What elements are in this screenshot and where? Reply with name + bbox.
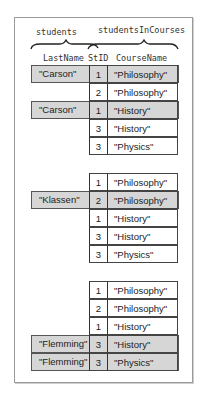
- coursename-cell: "Philosophy": [107, 281, 178, 299]
- coursename-cell: "History": [107, 209, 178, 227]
- stid-cell: 3: [89, 137, 107, 155]
- stid-cell: 1: [89, 65, 107, 83]
- stid-cell: 1: [89, 281, 107, 299]
- column-header-lastname: LastName: [43, 53, 84, 63]
- coursename-cell: "History": [107, 335, 178, 353]
- stid-cell: 1: [89, 101, 107, 119]
- students-in-courses-brace-icon: [30, 39, 180, 51]
- column-header-coursename: CourseName: [116, 53, 167, 63]
- stid-cell: 2: [89, 83, 107, 101]
- stid-cell: 1: [89, 173, 107, 191]
- students-table-label: students: [36, 27, 77, 37]
- coursename-cell: "Philosophy": [107, 299, 178, 317]
- coursename-cell: "Physics": [107, 353, 178, 371]
- lastname-cell: "Flemming": [31, 353, 89, 371]
- coursename-cell: "History": [107, 119, 178, 137]
- stid-cell: 3: [89, 245, 107, 263]
- coursename-cell: "Philosophy": [107, 191, 178, 209]
- lastname-cell: "Flemming": [31, 335, 89, 353]
- stid-cell: 3: [89, 335, 107, 353]
- column-header-stid: StID: [88, 53, 108, 63]
- coursename-cell: "History": [107, 317, 178, 335]
- coursename-cell: "Physics": [107, 137, 178, 155]
- lastname-cell: "Klassen": [31, 191, 89, 209]
- stid-cell: 2: [89, 299, 107, 317]
- stid-cell: 3: [89, 119, 107, 137]
- coursename-cell: "Physics": [107, 245, 178, 263]
- lastname-cell: "Carson": [31, 65, 89, 83]
- coursename-cell: "History": [107, 227, 178, 245]
- students-in-courses-table-label: studentsInCourses: [98, 25, 185, 35]
- stid-cell: 2: [89, 191, 107, 209]
- coursename-cell: "History": [107, 101, 178, 119]
- stid-cell: 3: [89, 227, 107, 245]
- stid-cell: 1: [89, 209, 107, 227]
- stid-cell: 1: [89, 317, 107, 335]
- lastname-cell: "Carson": [31, 101, 89, 119]
- coursename-cell: "Philosophy": [107, 173, 178, 191]
- stid-cell: 3: [89, 353, 107, 371]
- coursename-cell: "Philosophy": [107, 83, 178, 101]
- coursename-cell: "Philosophy": [107, 65, 178, 83]
